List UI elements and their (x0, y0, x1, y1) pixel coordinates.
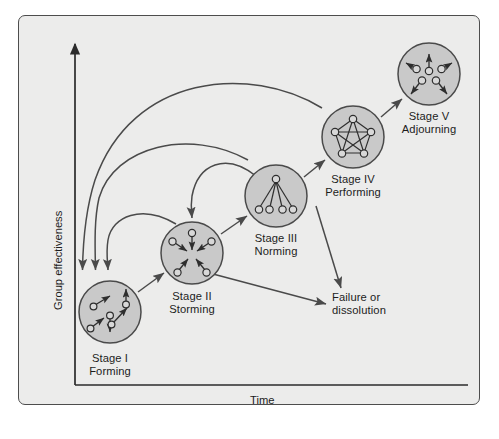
stage-1-circle-forming (79, 281, 141, 343)
stage-2-label-line1: Stage II (142, 290, 242, 303)
stage-5-circle-adjourning (398, 43, 460, 105)
stage-1-label-line1: Stage I (60, 352, 160, 365)
stage-3-circle-norming (245, 165, 307, 227)
stage-3-label-line2: Norming (226, 245, 326, 258)
stage-3-label: Stage III Norming (226, 232, 326, 259)
stage-4-circle-performing (322, 106, 384, 168)
failure-label-line2: dissolution (332, 304, 442, 317)
y-axis-label: Group effectiveness (52, 211, 64, 310)
stage-1-label-line2: Forming (60, 365, 160, 378)
failure-or-dissolution-label: Failure or dissolution (332, 291, 442, 318)
x-axis-label: Time (250, 394, 274, 406)
stage-4-label-line2: Performing (303, 186, 403, 199)
stage-5-label-line2: Adjourning (379, 123, 479, 136)
figure-canvas: Group effectiveness Time Stage I Forming… (0, 0, 499, 439)
stage-5-label: Stage V Adjourning (379, 110, 479, 137)
stage-2-circle-storming (161, 222, 223, 284)
stage-1-label: Stage I Forming (60, 352, 160, 379)
stage-4-label-line1: Stage IV (303, 173, 403, 186)
stage-3-label-line1: Stage III (226, 232, 326, 245)
failure-label-line1: Failure or (332, 291, 442, 304)
stage-4-label: Stage IV Performing (303, 173, 403, 200)
stage-5-label-line1: Stage V (379, 110, 479, 123)
stage-2-label: Stage II Storming (142, 290, 242, 317)
stage-2-label-line2: Storming (142, 303, 242, 316)
